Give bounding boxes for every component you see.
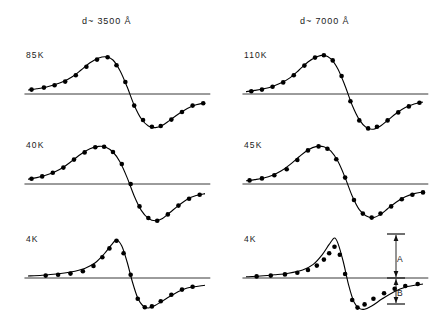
data-point (169, 293, 174, 298)
data-point (150, 304, 155, 309)
plot-panel-left-85K: 85K (18, 48, 213, 136)
data-point (61, 165, 66, 170)
data-point (120, 162, 125, 167)
data-point (407, 104, 412, 109)
scale-bar-graphic (383, 232, 425, 314)
data-point (84, 65, 89, 70)
panel-plot-left-40K (18, 138, 213, 226)
data-point (247, 178, 252, 183)
data-point (268, 273, 273, 278)
data-point (313, 55, 318, 60)
panel-plot-left-85K (18, 48, 213, 136)
data-point (93, 145, 98, 150)
data-point (254, 274, 259, 279)
figure-root: d~ 3500 Å d~ 7000 Å 85K 40K 4K 110K 45K … (0, 0, 438, 332)
data-point (396, 110, 401, 115)
data-point (95, 57, 100, 62)
data-point (114, 239, 119, 244)
data-point (146, 216, 151, 221)
data-point (81, 269, 86, 274)
data-point (132, 103, 137, 108)
column-header-right: d~ 7000 Å (300, 16, 349, 26)
data-point (306, 148, 311, 153)
data-point (327, 251, 332, 256)
data-point (137, 204, 142, 209)
panel-plot-left-4K (18, 232, 213, 320)
data-point (325, 147, 330, 152)
data-point (135, 297, 140, 302)
data-point (180, 287, 185, 292)
data-point (417, 101, 422, 106)
data-point (361, 211, 366, 216)
data-point (343, 175, 348, 180)
data-point (334, 157, 339, 162)
data-point (121, 251, 126, 256)
data-point (40, 174, 45, 179)
data-point (385, 118, 390, 123)
plot-panel-left-40K: 40K (18, 138, 213, 226)
data-point (302, 63, 307, 68)
data-point (281, 80, 286, 85)
data-point (111, 150, 116, 155)
data-point (348, 99, 353, 104)
data-point (187, 197, 192, 202)
data-point (270, 85, 275, 90)
fitted-curve (28, 240, 205, 308)
data-point (52, 83, 57, 88)
data-point (201, 101, 206, 106)
data-point (338, 253, 343, 258)
data-point (350, 298, 355, 303)
data-point (322, 257, 327, 262)
data-point (362, 302, 367, 307)
data-point (249, 89, 254, 94)
column-header-left: d~ 3500 Å (82, 16, 131, 26)
data-point (332, 245, 337, 250)
data-point (176, 203, 181, 208)
panel-plot-right-45K (236, 138, 431, 226)
data-point (128, 273, 133, 278)
fitted-curve (28, 146, 205, 221)
data-point (158, 299, 163, 304)
amplitude-scale-bar: A B (383, 232, 425, 314)
plot-panel-left-4K: 4K (18, 232, 213, 320)
data-point (72, 157, 77, 162)
data-point (197, 193, 202, 198)
data-point (43, 273, 48, 278)
scale-segment-a-label: A (397, 254, 403, 264)
data-point (169, 117, 174, 122)
data-point (283, 272, 288, 277)
data-point (410, 193, 415, 198)
data-point (284, 167, 289, 172)
data-point (73, 73, 78, 78)
data-point (29, 177, 34, 182)
data-point (105, 55, 110, 60)
data-point (158, 124, 163, 129)
data-point (272, 173, 277, 178)
data-point (291, 73, 296, 78)
data-point (369, 215, 374, 220)
scale-segment-b-label: B (397, 288, 403, 298)
data-point (389, 204, 394, 209)
data-point (91, 264, 96, 269)
data-point (315, 263, 320, 268)
data-point (295, 271, 300, 276)
data-point (352, 198, 357, 203)
data-point (190, 103, 195, 108)
data-point (260, 87, 265, 92)
data-point (366, 126, 371, 131)
data-point (50, 171, 55, 176)
data-point (56, 273, 61, 278)
data-point (114, 63, 119, 68)
data-point (180, 110, 185, 115)
data-point (190, 285, 195, 290)
fitted-curve (246, 55, 423, 129)
plot-panel-right-45K: 45K (236, 138, 431, 226)
data-point (42, 85, 47, 90)
fitted-curve (246, 146, 423, 218)
data-point (141, 118, 146, 123)
data-point (63, 79, 68, 84)
data-point (399, 197, 404, 202)
data-point (375, 125, 380, 130)
data-point (378, 211, 383, 216)
data-point (339, 74, 344, 79)
